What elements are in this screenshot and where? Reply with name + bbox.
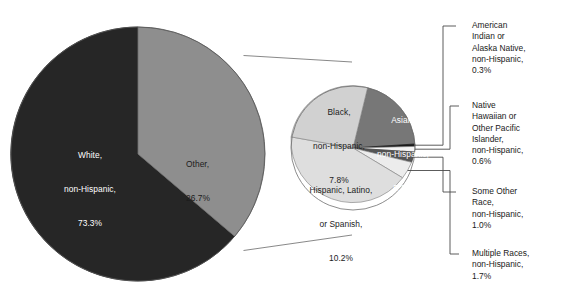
sub-label-asian-line1: Asian,	[366, 115, 440, 126]
pie-of-pie-chart: White, non-Hispanic, 73.3% Other, 26.7% …	[0, 0, 565, 304]
main-label-white-line1: White,	[32, 150, 148, 161]
sub-label-hispanic-line3: 10.2%	[292, 253, 390, 264]
sub-label-hispanic-latino-spanish: Hispanic, Latino, or Spanish, 10.2%	[292, 163, 390, 286]
sub-label-hispanic-line2: or Spanish,	[292, 219, 390, 230]
sub-label-asian-line2: non-Hispanic,	[366, 149, 440, 160]
callout-american-indian-alaska-native: American Indian or Alaska Native, non-Hi…	[472, 20, 564, 76]
callout-some-other-race: Some Other Race, non-Hispanic, 1.0%	[472, 186, 564, 231]
callout-multiple-races: Multiple Races, non-Hispanic, 1.7%	[472, 248, 564, 282]
main-label-other-line2: 26.7%	[186, 193, 256, 204]
main-label-white-line3: 73.3%	[32, 218, 148, 229]
main-label-white-non-hispanic: White, non-Hispanic, 73.3%	[32, 128, 148, 251]
sub-label-hispanic-line1: Hispanic, Latino,	[292, 185, 390, 196]
callout-native-hawaiian-pacific-islander: Native Hawaiian or Other Pacific Islande…	[472, 100, 564, 168]
main-label-white-line2: non-Hispanic,	[32, 184, 148, 195]
main-label-other: Other, 26.7%	[186, 137, 256, 227]
main-label-other-line1: Other,	[186, 159, 256, 170]
